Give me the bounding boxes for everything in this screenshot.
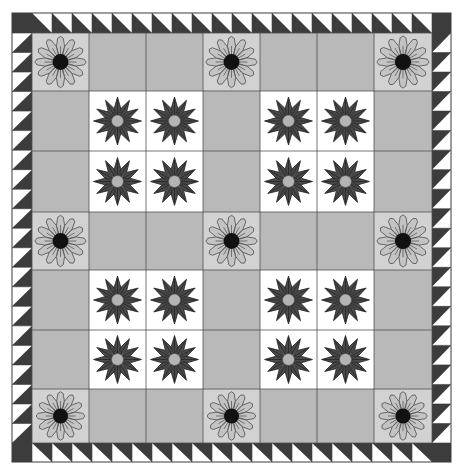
flower-center	[224, 233, 240, 249]
flower-center	[395, 408, 410, 423]
flower-center	[224, 408, 239, 423]
dark-flower-block	[260, 91, 317, 151]
flower-center	[340, 115, 351, 126]
dark-flower-block	[317, 330, 374, 389]
dark-flower-block	[89, 91, 146, 151]
dark-flower-block	[89, 330, 146, 389]
flower-center	[112, 115, 123, 126]
flower-center	[53, 408, 68, 423]
dark-flower-block	[260, 330, 317, 389]
quilt	[0, 0, 461, 472]
dark-flower-block	[89, 270, 146, 330]
light-flower-block	[203, 212, 260, 270]
flower-center	[112, 176, 123, 187]
light-flower-block	[203, 33, 260, 91]
flower-center	[169, 294, 180, 305]
dark-flower-block	[260, 270, 317, 330]
flower-center	[395, 54, 411, 70]
light-flower-block	[374, 212, 432, 270]
flower-center	[53, 54, 69, 70]
dark-flower-block	[146, 270, 203, 330]
flower-center	[224, 54, 240, 70]
quilt-canvas	[0, 0, 461, 472]
light-flower-block	[32, 212, 89, 270]
light-flower-block	[32, 389, 89, 443]
flower-center	[112, 294, 123, 305]
dark-flower-block	[89, 151, 146, 212]
dark-flower-block	[317, 151, 374, 212]
flower-center	[283, 176, 294, 187]
dark-flower-block	[260, 151, 317, 212]
flower-center	[283, 115, 294, 126]
dark-flower-block	[146, 91, 203, 151]
dark-flower-block	[317, 270, 374, 330]
flower-center	[395, 233, 411, 249]
flower-center	[53, 233, 69, 249]
dark-flower-block	[317, 91, 374, 151]
light-flower-block	[32, 33, 89, 91]
light-flower-block	[203, 389, 260, 443]
dark-flower-block	[146, 151, 203, 212]
flower-center	[283, 354, 294, 365]
flower-center	[340, 294, 351, 305]
light-flower-block	[374, 389, 432, 443]
flower-center	[340, 176, 351, 187]
dark-flower-block	[146, 330, 203, 389]
flower-center	[283, 294, 294, 305]
flower-center	[169, 176, 180, 187]
flower-center	[169, 354, 180, 365]
light-flower-block	[374, 33, 432, 91]
flower-center	[169, 115, 180, 126]
flower-center	[340, 354, 351, 365]
flower-center	[112, 354, 123, 365]
